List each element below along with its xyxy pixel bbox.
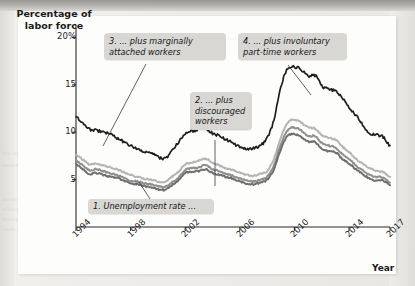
annotation-involuntary-part-time: 4. ... plus involuntary part-time worker… [238, 33, 347, 60]
x-tick-label: 2002 [179, 217, 201, 239]
x-tick-label: 1998 [125, 217, 147, 239]
x-tick-label: 1994 [70, 217, 92, 239]
x-tick-label: 2010 [288, 217, 310, 239]
annotation-marginally-attached: 3. ... plus marginally attached workers [104, 33, 226, 60]
x-tick-label: 2017 [384, 217, 406, 239]
annotation-unemployment-rate: 1. Unemployment rate ... [88, 199, 214, 214]
x-tick-label: 2014 [343, 217, 365, 239]
annotation-discouraged-workers: 2. ... plus discouraged workers [190, 92, 252, 130]
x-tick-label: 2006 [234, 217, 256, 239]
